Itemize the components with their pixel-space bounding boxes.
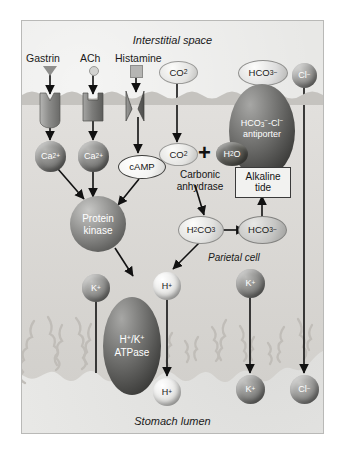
diagram-panel: Interstitial space Gastrin ACh Histamine… — [21, 20, 324, 434]
pump-atpase: ATPase — [115, 347, 150, 358]
h-lum-sup: + — [168, 389, 172, 395]
stomach-lumen-label: Stomach lumen — [22, 415, 323, 427]
potassium-ion-lumen: K+ — [236, 375, 265, 404]
h-k-atpase-label: H+/K+ ATPase — [104, 333, 160, 359]
pump-h: H — [119, 334, 126, 345]
h-k-atpase-shape — [22, 21, 323, 433]
pump-sup2: + — [140, 333, 144, 342]
proton-lumen: H+ — [153, 378, 181, 406]
cl-lum-text: Cl — [298, 385, 307, 394]
k-lum-sup: + — [252, 386, 256, 392]
chloride-ion-lumen: Cl− — [290, 375, 319, 404]
pump-slash: /K — [131, 334, 140, 345]
cl-lum-sup: − — [307, 386, 311, 392]
